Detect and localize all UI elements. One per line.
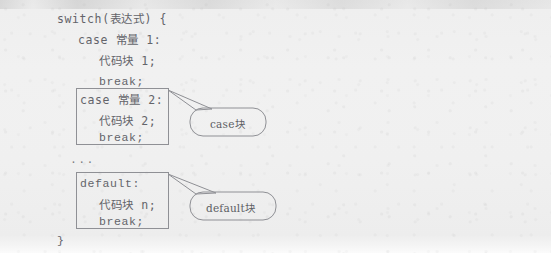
code-line-default-break: break; [99,215,144,229]
default-block-callout-tail [168,174,216,194]
code-line-case2-break: break; [99,131,144,145]
code-line-default-label: default: [80,177,140,191]
default-block-callout: default块 [166,173,286,225]
code-line-switch-header: switch(表达式) { [57,12,167,26]
code-line-ellipsis: ... [70,154,95,166]
code-line-case2-body: 代码块 2; [99,114,156,128]
case-block-callout-tail [168,90,212,110]
code-line-case1-body: 代码块 1; [99,54,156,68]
case-block-callout: case块 [166,89,276,141]
default-block-callout-shape [166,173,286,225]
code-line-default-body: 代码块 n; [99,198,156,212]
case-block-callout-shape [166,89,276,141]
code-line-case1-break: break; [99,75,144,89]
default-block-callout-label: default块 [206,200,255,215]
code-line-case2-label: case 常量 2: [80,93,163,107]
code-line-closing-brace: } [57,234,65,248]
case-block-callout-label: case块 [210,116,245,131]
switch-syntax-figure: switch(表达式) { case 常量 1: 代码块 1; break; c… [0,0,551,253]
code-line-case1-label: case 常量 1: [78,33,161,47]
scan-top-smudge [0,0,551,9]
